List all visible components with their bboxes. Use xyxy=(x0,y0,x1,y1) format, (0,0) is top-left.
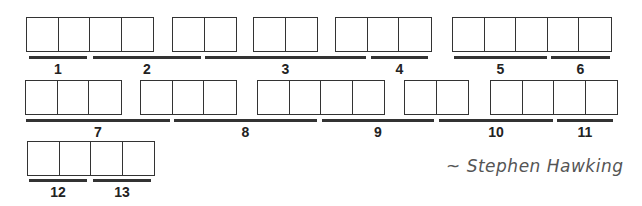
word-box-group xyxy=(404,80,469,115)
clue-underline xyxy=(93,179,151,182)
letter-cell[interactable] xyxy=(437,81,469,114)
clue-underline xyxy=(29,56,87,59)
clue-underline xyxy=(26,119,170,122)
clue-number: 2 xyxy=(143,62,151,76)
letter-cell[interactable] xyxy=(254,18,286,51)
letter-cell[interactable] xyxy=(321,81,353,114)
clue-number: 3 xyxy=(282,62,290,76)
letter-cell[interactable] xyxy=(548,18,580,51)
letter-cell[interactable] xyxy=(122,18,154,51)
clue-number: 7 xyxy=(94,125,102,139)
clue-number: 6 xyxy=(577,62,585,76)
letter-cell[interactable] xyxy=(91,142,123,175)
clue-number: 13 xyxy=(114,185,130,199)
letter-cell[interactable] xyxy=(58,81,90,114)
clue-underline xyxy=(551,56,610,59)
clue-underline xyxy=(557,119,613,122)
word-box-group xyxy=(335,17,432,52)
clue-number: 12 xyxy=(50,185,66,199)
letter-cell[interactable] xyxy=(485,18,517,51)
clue-underline xyxy=(371,56,428,59)
letter-cell[interactable] xyxy=(26,81,58,114)
letter-cell[interactable] xyxy=(491,81,523,114)
word-box-group xyxy=(26,17,154,52)
clue-underline xyxy=(93,56,201,59)
letter-cell[interactable] xyxy=(405,81,437,114)
clue-number: 10 xyxy=(488,125,504,139)
letter-cell[interactable] xyxy=(173,18,205,51)
clue-number: 9 xyxy=(374,125,382,139)
clue-number: 5 xyxy=(497,62,505,76)
clue-underline xyxy=(174,119,317,122)
letter-cell[interactable] xyxy=(523,81,555,114)
clue-number: 8 xyxy=(242,125,250,139)
word-box-group xyxy=(253,17,318,52)
clue-underline xyxy=(29,179,87,182)
letter-cell[interactable] xyxy=(586,81,618,114)
clue-number: 1 xyxy=(54,62,62,76)
word-box-group xyxy=(452,17,612,52)
letter-cell[interactable] xyxy=(59,18,91,51)
letter-cell[interactable] xyxy=(290,81,322,114)
clue-underline xyxy=(205,56,366,59)
clue-underline xyxy=(322,119,434,122)
letter-cell[interactable] xyxy=(28,142,60,175)
letter-cell[interactable] xyxy=(173,81,205,114)
letter-cell[interactable] xyxy=(579,18,611,51)
letter-cell[interactable] xyxy=(123,142,155,175)
clue-number: 4 xyxy=(396,62,404,76)
word-box-group xyxy=(172,17,237,52)
letter-cell[interactable] xyxy=(399,18,431,51)
letter-cell[interactable] xyxy=(258,81,290,114)
letter-cell[interactable] xyxy=(336,18,368,51)
letter-cell[interactable] xyxy=(368,18,400,51)
letter-cell[interactable] xyxy=(141,81,173,114)
clue-underline xyxy=(454,56,547,59)
word-box-group xyxy=(25,80,122,115)
word-box-group xyxy=(27,141,155,176)
letter-cell[interactable] xyxy=(205,18,237,51)
letter-cell[interactable] xyxy=(90,18,122,51)
letter-cell[interactable] xyxy=(60,142,92,175)
clue-number: 11 xyxy=(578,125,593,139)
clue-underline xyxy=(439,119,553,122)
letter-cell[interactable] xyxy=(516,18,548,51)
letter-cell[interactable] xyxy=(27,18,59,51)
word-box-group xyxy=(490,80,618,115)
letter-cell[interactable] xyxy=(89,81,121,114)
word-box-group xyxy=(140,80,237,115)
letter-cell[interactable] xyxy=(204,81,236,114)
letter-cell[interactable] xyxy=(353,81,385,114)
word-box-group xyxy=(257,80,385,115)
quote-attribution: ~ Stephen Hawking xyxy=(446,156,624,176)
letter-cell[interactable] xyxy=(453,18,485,51)
letter-cell[interactable] xyxy=(554,81,586,114)
letter-cell[interactable] xyxy=(286,18,318,51)
